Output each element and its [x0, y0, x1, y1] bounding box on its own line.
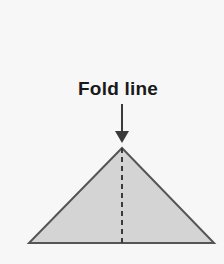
fold-line-label: Fold line [78, 78, 158, 99]
fold-line-diagram: Fold line [0, 0, 224, 264]
diagram-canvas: Fold line [0, 0, 224, 264]
